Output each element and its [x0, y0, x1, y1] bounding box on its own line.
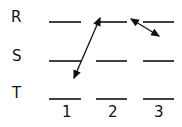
- double-arrow-1: [74, 18, 100, 78]
- diagram-canvas: [0, 0, 182, 127]
